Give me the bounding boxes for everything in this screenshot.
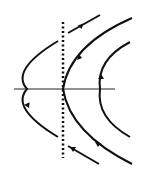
top-segment: [68, 15, 100, 33]
arrow-up-icon: [98, 74, 104, 79]
middle-trajectory: [63, 18, 132, 164]
phase-portrait-diagram: [0, 0, 142, 174]
